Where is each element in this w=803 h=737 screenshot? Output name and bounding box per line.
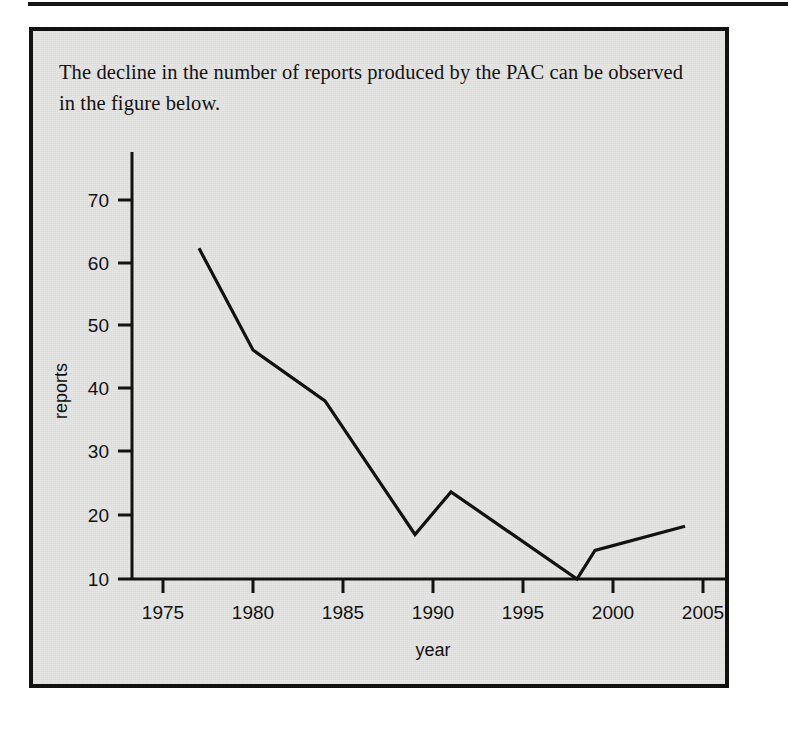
x-tick-label-1975: 1975 <box>142 602 184 623</box>
line-chart: 70 60 50 40 30 20 10 reports 1975 1980 1… <box>33 31 725 684</box>
x-tick-label-1995: 1995 <box>502 602 544 623</box>
y-tick-label-30: 30 <box>88 441 109 462</box>
x-axis-title: year <box>415 640 450 660</box>
x-tick-label-1990: 1990 <box>412 602 454 623</box>
y-tick-label-50: 50 <box>88 315 109 336</box>
y-tick-label-20: 20 <box>88 505 109 526</box>
y-tick-label-70: 70 <box>88 190 109 211</box>
x-tick-label-1985: 1985 <box>322 602 364 623</box>
data-series-line <box>199 248 685 579</box>
y-tick-label-10: 10 <box>88 569 109 590</box>
y-axis-ticks <box>118 200 132 579</box>
x-tick-label-1980: 1980 <box>232 602 274 623</box>
x-tick-label-2005: 2005 <box>682 602 724 623</box>
figure-box: The decline in the number of reports pro… <box>29 27 729 688</box>
x-axis-ticks <box>163 579 703 593</box>
page-top-rule <box>28 2 788 6</box>
y-tick-label-40: 40 <box>88 378 109 399</box>
y-tick-label-60: 60 <box>88 253 109 274</box>
x-tick-label-2000: 2000 <box>592 602 634 623</box>
y-axis-title: reports <box>51 363 71 419</box>
